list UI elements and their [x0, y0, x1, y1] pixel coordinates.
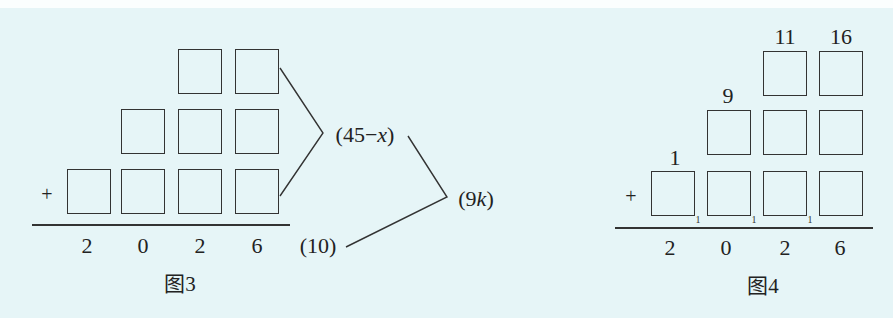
sum-line	[615, 227, 873, 229]
digit-box	[707, 171, 751, 216]
bracket-lines	[0, 0, 893, 318]
digit-box	[819, 51, 863, 96]
column-label-hundreds: 9	[723, 85, 734, 107]
carry-mark: 1	[696, 215, 701, 225]
carry-mark: 1	[752, 215, 757, 225]
digit-box	[819, 110, 863, 155]
digit-box	[763, 51, 807, 96]
sum-digit-thousands: 2	[665, 237, 676, 259]
digit-box	[707, 110, 751, 155]
digit-box	[819, 171, 863, 216]
carry-mark: 1	[808, 215, 813, 225]
plus-sign: +	[625, 186, 636, 206]
column-label-tens: 11	[774, 26, 795, 48]
figure-4-caption: 图4	[747, 276, 779, 297]
sum-digit-hundreds: 0	[721, 237, 732, 259]
units-column-bracket	[280, 68, 323, 196]
column-label-thousands: 1	[670, 147, 681, 169]
digit-box	[763, 110, 807, 155]
digit-box	[651, 171, 695, 216]
column-label-units: 16	[830, 26, 852, 48]
sum-digit-tens: 2	[780, 237, 791, 259]
difference-bracket	[346, 136, 447, 247]
digit-box	[763, 171, 807, 216]
sum-digit-units: 6	[835, 237, 846, 259]
